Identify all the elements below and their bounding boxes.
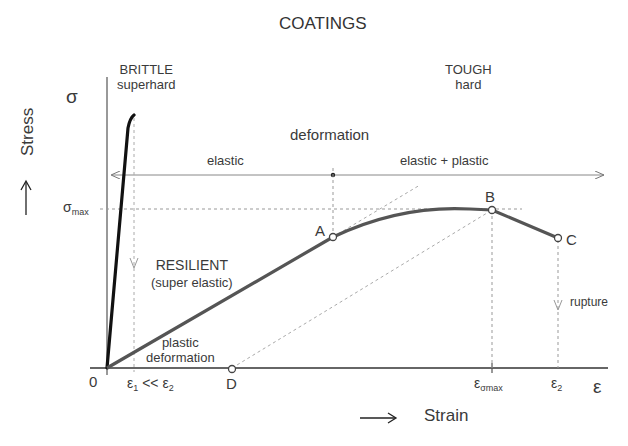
resilient-name: RESILIENT xyxy=(151,256,233,274)
resilient-label: RESILIENT (super elastic) xyxy=(151,256,233,292)
tough-name: TOUGH xyxy=(445,62,492,77)
eps1-label: ε1 << ε2 xyxy=(127,375,174,393)
point-D-label: D xyxy=(226,375,237,392)
sigma-max-label: σmax xyxy=(63,199,89,217)
stress-label: Stress xyxy=(18,108,38,156)
tough-sub: hard xyxy=(445,77,492,92)
sigma-symbol: σ xyxy=(66,86,78,108)
rupture-label: rupture xyxy=(570,295,608,309)
point-C-label: C xyxy=(566,231,577,248)
point-C xyxy=(555,235,562,242)
brittle-sub: superhard xyxy=(117,77,176,92)
point-D xyxy=(229,366,236,373)
point-B-label: B xyxy=(485,188,495,205)
point-A xyxy=(330,234,337,241)
elastic-label: elastic xyxy=(207,153,244,168)
epsilon-symbol: ε xyxy=(593,376,601,398)
brittle-label: BRITTLE superhard xyxy=(117,62,176,92)
elastic-plastic-label: elastic + plastic xyxy=(400,153,489,168)
diagram-title: COATINGS xyxy=(279,14,367,34)
brittle-name: BRITTLE xyxy=(117,62,176,77)
strain-label: Strain xyxy=(424,406,468,426)
deformation-label: deformation xyxy=(290,126,369,143)
origin-label: 0 xyxy=(89,373,97,390)
elastic-extension xyxy=(333,185,420,237)
point-A-label: A xyxy=(315,222,325,239)
unloading-line xyxy=(232,210,492,368)
tough-label: TOUGH hard xyxy=(445,62,492,92)
brittle-curve xyxy=(107,115,134,368)
eps2-label: ε2 xyxy=(551,375,562,393)
plastic-deformation-label: plastic deformation xyxy=(146,335,215,365)
point-B xyxy=(489,207,496,214)
eps-smax-label: εσmax xyxy=(474,375,503,393)
resilient-sub: (super elastic) xyxy=(151,274,233,292)
